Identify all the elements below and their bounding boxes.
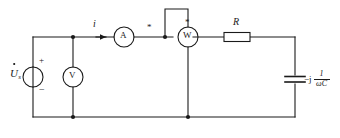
voltmeter-symbol-label: V xyxy=(69,71,76,80)
resistor-symbol xyxy=(224,33,250,42)
wattmeter-symbol-label: W xyxy=(183,31,192,40)
source-minus-terminal-label: − xyxy=(39,85,45,95)
node-dot-top-voltmeter xyxy=(71,35,75,39)
resistor-label: R xyxy=(233,17,239,27)
capacitor-impedance-fraction: 1 ωC xyxy=(314,70,330,88)
wattmeter-current-coil-polarity-mark: * xyxy=(147,23,152,32)
node-dot-bottom-voltmeter xyxy=(71,115,75,119)
voltage-source-label-main: U xyxy=(10,67,18,79)
voltage-source-label: Us xyxy=(10,68,21,81)
capacitor-impedance-denominator: ωC xyxy=(315,80,328,88)
capacitor-impedance-prefix: −j xyxy=(304,75,312,84)
voltage-source-label-subscript: s xyxy=(18,73,21,81)
current-arrow-head xyxy=(100,34,106,40)
circuit-diagram-canvas: Us + − i R * * A V W −j 1 ωC xyxy=(0,0,340,138)
schematic-svg xyxy=(0,0,340,138)
capacitor-impedance-numerator: 1 xyxy=(319,70,325,78)
source-plus-terminal-label: + xyxy=(39,56,44,65)
current-label: i xyxy=(93,19,96,29)
node-dot-wattmeter-coil xyxy=(163,35,167,39)
ammeter-symbol-label: A xyxy=(120,31,127,40)
wattmeter-voltage-coil-polarity-mark: * xyxy=(185,18,190,27)
capacitor-impedance-label: −j 1 ωC xyxy=(304,70,330,88)
